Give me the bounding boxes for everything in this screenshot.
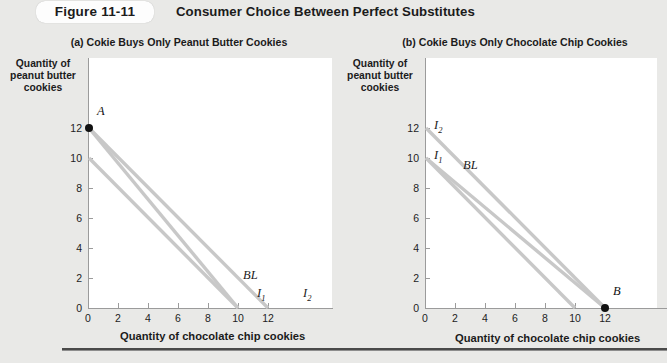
panel-a-label-bl: BL <box>243 268 258 283</box>
panel-b-label-i1: I1 <box>434 148 442 165</box>
bottom-divider-shadow <box>62 350 667 351</box>
panel-a-curve-i1 <box>89 128 238 308</box>
panel-b-budget-line <box>426 158 605 308</box>
panel-b-label-i2: I2 <box>434 118 442 135</box>
panel-b-curve-i2 <box>426 128 605 308</box>
panel-a-label-i1: I1 <box>257 286 265 303</box>
panel-a-point-a-label: A <box>97 104 105 119</box>
panel-b-point-b-label: B <box>613 284 621 299</box>
figure-page: Figure 11-11 Consumer Choice Between Per… <box>0 0 667 363</box>
panel-b-point-b-dot <box>601 304 609 312</box>
panel-a-curves <box>0 0 340 363</box>
panel-b-curves <box>333 0 667 363</box>
panel-b-curve-i1 <box>426 158 575 308</box>
panel-a: (a) Cokie Buys Only Peanut Butter Cookie… <box>0 0 340 363</box>
panel-b: (b) Cokie Buys Only Chocolate Chip Cooki… <box>333 0 667 363</box>
panel-a-curve-i2 <box>89 128 268 308</box>
panel-a-budget-line <box>89 158 238 308</box>
panel-a-label-i2: I2 <box>303 286 311 303</box>
panel-a-point-a-dot <box>85 124 93 132</box>
panel-b-label-bl: BL <box>463 158 478 173</box>
